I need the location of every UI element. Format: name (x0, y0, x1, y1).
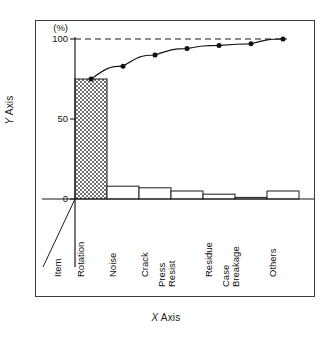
cumulative-point-5 (249, 41, 254, 46)
cumulative-point-6 (281, 37, 286, 42)
bar-crack (139, 188, 171, 199)
category-label-residue: Residue (204, 242, 214, 277)
chart-frame: (%)100500 ItemRotationNoiseCrackPressRes… (35, 20, 315, 297)
y-tick-label-0: 0 (36, 193, 68, 204)
x-axis-title-rest: Axis (158, 312, 180, 323)
y-tick-label-100: 100 (36, 33, 68, 44)
y-unit-label: (%) (36, 22, 68, 33)
cumulative-point-3 (185, 46, 190, 51)
category-label-residue-line-1: Residue (204, 242, 214, 277)
cumulative-line (91, 39, 283, 79)
y-axis-title: Y Axis (4, 111, 15, 125)
y-axis-title-rest: Axis (4, 96, 15, 118)
category-label-noise: Noise (108, 253, 118, 277)
bar-others (267, 191, 299, 199)
cumulative-point-0 (89, 77, 94, 82)
cumulative-line-group (89, 37, 286, 82)
bar-residue (203, 194, 235, 199)
category-label-noise-line-1: Noise (108, 253, 118, 277)
category-label-item-line-1: Item (53, 259, 63, 277)
category-label-case-breakage-line-2: Breakage (231, 246, 241, 287)
cumulative-point-2 (153, 53, 158, 58)
x-axis-title: X Axis (0, 312, 332, 323)
category-label-others-line-1: Others (268, 248, 278, 277)
category-label-rotation: Rotation (76, 242, 86, 277)
category-label-others: Others (268, 248, 278, 277)
category-label-press-resist-line-2: Resist (167, 261, 177, 287)
pareto-chart-figure: Y Axis X Axis (%)100500 ItemRotationNois… (0, 0, 332, 338)
y-axis-title-italic: Y (4, 118, 15, 125)
bar-rotation (75, 79, 107, 199)
category-label-rotation-line-1: Rotation (76, 242, 86, 277)
cumulative-point-1 (121, 64, 126, 69)
category-label-crack-line-1: Crack (140, 252, 150, 277)
bar-noise (107, 186, 139, 199)
cumulative-point-4 (217, 43, 222, 48)
category-label-crack: Crack (140, 252, 150, 277)
bar-press-resist (171, 191, 203, 199)
item-leader-line (43, 199, 75, 267)
category-label-item: Item (53, 259, 63, 277)
category-label-press-resist: PressResist (157, 261, 177, 287)
bars-group (75, 79, 299, 199)
category-label-case-breakage: CaseBreakage (221, 246, 241, 287)
y-tick-label-50: 50 (36, 113, 68, 124)
